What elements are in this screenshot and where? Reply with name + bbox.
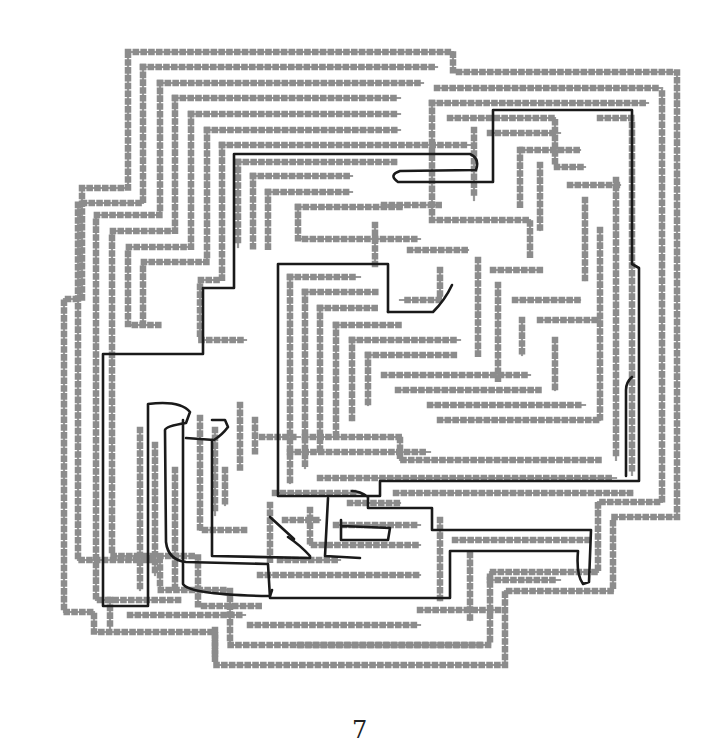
maze-wall xyxy=(400,270,440,300)
page-number: 7 xyxy=(352,716,367,744)
maze-wall xyxy=(298,207,420,239)
maze-wall xyxy=(432,103,530,256)
maze-wall-dots xyxy=(400,440,600,460)
maze-wall-dots xyxy=(400,270,440,300)
maze-walls-dotted xyxy=(64,52,677,665)
maze-wall-dots xyxy=(298,207,420,239)
solution-stroke xyxy=(186,420,228,440)
solution-stroke xyxy=(183,420,272,596)
maze-wall-dots xyxy=(432,103,530,256)
maze-canvas xyxy=(0,0,725,745)
